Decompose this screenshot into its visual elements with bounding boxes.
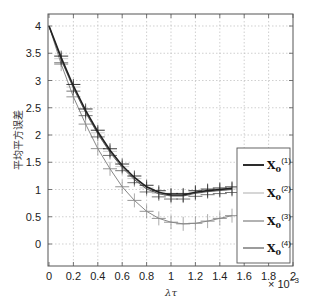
y-tick-label: 3	[35, 75, 41, 87]
series-line	[49, 26, 232, 195]
x-tick-label: 1	[168, 270, 174, 282]
mse-line-chart: 00.20.40.60.811.21.41.61.82 00.511.522.5…	[0, 0, 309, 305]
legend: X0(1)X0(2)X0(3)X0(4)	[237, 148, 291, 263]
x-axis-label: λτ	[164, 287, 177, 298]
y-tick-label: 4	[35, 20, 41, 32]
y-tick-label: 2	[35, 129, 41, 141]
y-tick-label: 1	[35, 184, 41, 196]
series-line	[49, 26, 232, 196]
x-tick-label: 0.8	[139, 270, 154, 282]
x-tick-label: 1.2	[188, 270, 203, 282]
x-tick-label: 0.2	[66, 270, 81, 282]
series-line	[49, 26, 232, 195]
series-line	[49, 26, 232, 224]
y-tick-label: 0.5	[26, 211, 41, 223]
x-tick-label: 1.6	[237, 270, 252, 282]
x-tick-label: 1.4	[212, 270, 227, 282]
y-tick-label: 1.5	[26, 156, 41, 168]
x-scale-note: × 10−3	[268, 276, 299, 290]
y-tick-label: 2.5	[26, 102, 41, 114]
x-tick-label: 0	[46, 270, 52, 282]
y-tick-label: 3.5	[26, 47, 41, 59]
y-tick-label: 0	[35, 238, 41, 250]
x-tick-label: 0.4	[90, 270, 105, 282]
data-series	[49, 26, 239, 231]
x-tick-label: 0.6	[115, 270, 130, 282]
y-axis-label: 平均平方误差	[12, 110, 24, 170]
